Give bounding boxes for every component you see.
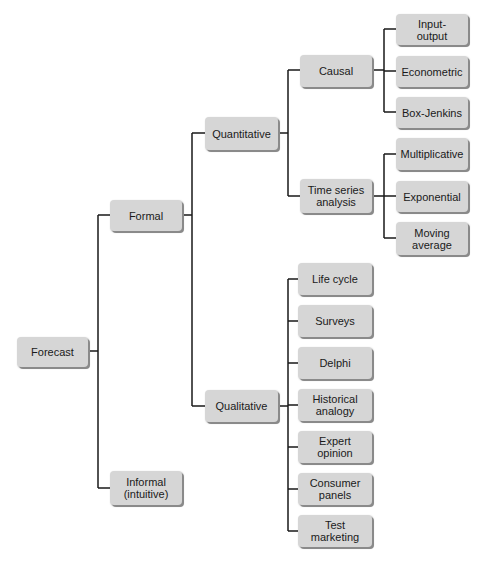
node-input-output: Input- output [396,14,468,45]
node-multiplicative: Multiplicative [396,138,468,170]
node-qualitative: Qualitative [205,390,278,422]
node-delphi: Delphi [298,347,372,379]
node-box-jenkins: Box-Jenkins [396,97,468,128]
node-consumer-panels: Consumer panels [298,473,372,505]
node-exponential: Exponential [396,181,468,212]
node-moving-average: Moving average [396,222,468,255]
node-quantitative: Quantitative [205,117,278,150]
node-forecast: Forecast [17,337,88,367]
node-life-cycle: Life cycle [298,263,372,295]
node-informal: Informal (intuitive) [110,471,182,505]
node-econometric: Econometric [396,56,468,87]
node-causal: Causal [300,55,372,87]
node-formal: Formal [110,200,182,231]
node-surveys: Surveys [298,305,372,337]
node-time-series-analysis: Time series analysis [300,179,372,213]
node-historical-analogy: Historical analogy [298,389,372,421]
node-expert-opinion: Expert opinion [298,431,372,463]
node-test-marketing: Test marketing [298,515,372,547]
